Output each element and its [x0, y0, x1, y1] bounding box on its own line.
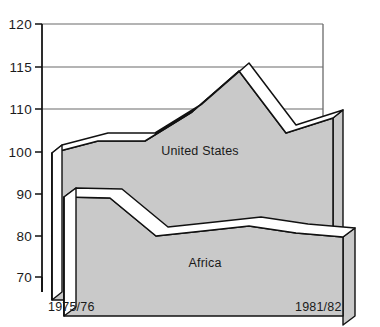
series-label-africa: Africa — [188, 256, 221, 270]
y-tick-label-90: 90 — [16, 187, 32, 202]
y-tick-label-110: 110 — [10, 102, 32, 117]
y-tick-label-80: 80 — [16, 229, 32, 244]
y-tick-label-100: 100 — [9, 145, 32, 160]
area-chart-3d: 120 115 110 100 90 80 70 — [0, 0, 380, 327]
y-tick-label-120: 120 — [9, 17, 32, 32]
us-left-end-cap — [52, 145, 62, 300]
africa-left-end-cap — [64, 188, 76, 316]
y-axis: 120 115 110 100 90 80 70 — [9, 17, 42, 292]
y-tick-label-115: 115 — [10, 60, 32, 75]
x-tick-label-end: 1981/82 — [295, 300, 342, 314]
x-tick-label-start: 1975/76 — [48, 300, 95, 314]
chart-container: 120 115 110 100 90 80 70 — [0, 0, 380, 327]
y-tick-label-70: 70 — [16, 270, 32, 285]
africa-right-side-face — [343, 228, 355, 325]
series-label-united-states: United States — [161, 144, 239, 158]
